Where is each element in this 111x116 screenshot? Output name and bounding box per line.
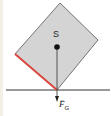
center-of-mass-label: S: [53, 29, 59, 39]
force-subscript: G: [65, 105, 70, 111]
diagram-canvas: [0, 0, 111, 116]
center-of-mass-dot: [54, 44, 60, 50]
gravity-force-label: FG: [59, 99, 69, 111]
